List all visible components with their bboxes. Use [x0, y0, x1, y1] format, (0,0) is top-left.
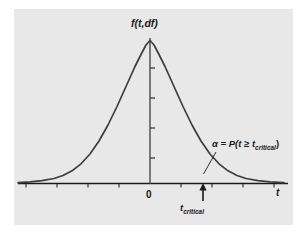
- plot-canvas: [0, 0, 307, 234]
- alpha-annotation: α = P(t ≥ tcritical): [212, 139, 279, 151]
- x-axis-title: t: [276, 188, 279, 198]
- alpha-prefix: α = P(: [212, 138, 238, 149]
- t-critical-subscript: critical: [183, 208, 204, 215]
- y-axis-title: f(t,df): [131, 18, 158, 29]
- t-critical-arrow: [199, 183, 206, 201]
- figure-container: f(t,df) 0 t tcritical α = P(t ≥ tcritica…: [0, 0, 307, 234]
- t-distribution-curve: [18, 41, 284, 183]
- alpha-tcrit-subscript: critical: [255, 144, 276, 151]
- alpha-relation: ≥: [241, 138, 252, 149]
- alpha-leader-line: [204, 152, 217, 174]
- x-axis-origin-label: 0: [146, 190, 152, 200]
- t-critical-label: tcritical: [180, 203, 204, 215]
- alpha-suffix: ): [276, 138, 279, 149]
